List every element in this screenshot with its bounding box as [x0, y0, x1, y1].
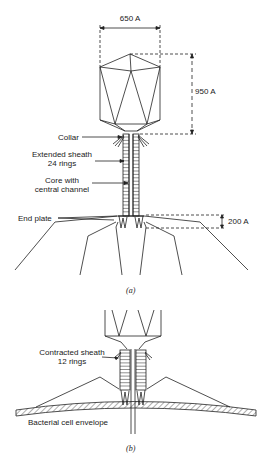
collar-label: Collar [58, 133, 79, 142]
end-plate-label: End plate [18, 214, 52, 223]
head-width-label: 650 A [112, 14, 148, 23]
end-plate [116, 216, 146, 228]
tail-fibers [15, 216, 248, 275]
end-plate-height-label: 200 A [228, 217, 248, 226]
end-plate-dimension [146, 215, 225, 228]
sheath-rings [123, 137, 139, 212]
contracted-sheath [120, 350, 146, 390]
phage-diagram [0, 0, 266, 467]
caption-b: (b) [126, 444, 135, 453]
cell-envelope [16, 402, 256, 417]
sheath-label-a: Extended sheath 24 rings [28, 150, 96, 168]
contracted-sheath-label: Contracted sheath 12 rings [36, 348, 108, 366]
contracted-head [105, 310, 161, 349]
contracted-rings [120, 353, 146, 386]
height-dimension [130, 54, 196, 134]
envelope-label: Bacterial cell envelope [28, 418, 108, 427]
core-label-line1: Core with [28, 176, 96, 185]
core-label-line2: central channel [28, 185, 96, 194]
core-label: Core with central channel [28, 176, 96, 194]
contracted-label-line1: Contracted sheath [36, 348, 108, 357]
caption-a: (a) [126, 286, 135, 295]
capsid-head [100, 54, 160, 131]
sheath-label-line2: 24 rings [28, 159, 96, 168]
contracted-label-line2: 12 rings [36, 357, 108, 366]
sheath-label-line1: Extended sheath [28, 150, 96, 159]
head-height-label: 950 A [195, 87, 215, 96]
extended-sheath [123, 134, 139, 216]
injected-core [131, 349, 135, 434]
